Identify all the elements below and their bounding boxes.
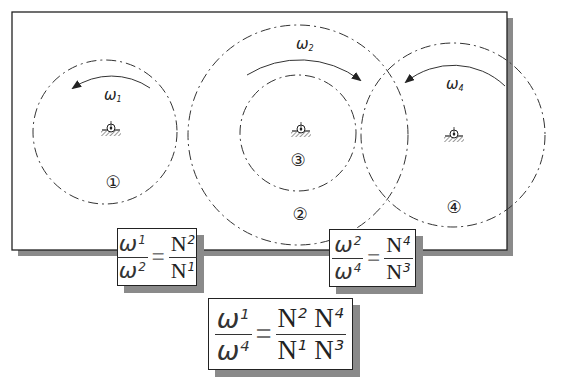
- gear-1-label: ①: [105, 172, 120, 192]
- diagram-frame: [12, 12, 507, 250]
- equation-1-lhs: ω1 ω2: [117, 233, 148, 282]
- equation-3-rhs: N2 N4 N1 N3: [276, 305, 347, 364]
- equation-3-lhs: ω1 ω4: [215, 305, 252, 364]
- equation-gear-2-4: ω2 ω4 = N4 N3: [329, 229, 416, 287]
- equation-gear-1-4-combined: ω1 ω4 = N2 N4 N1 N3: [208, 298, 353, 370]
- equals-sign: =: [367, 245, 380, 271]
- equation-gear-1-2: ω1 ω2 = N2 N1: [117, 228, 197, 286]
- equals-sign: =: [256, 319, 272, 350]
- equation-1-rhs: N2 N1: [169, 233, 198, 282]
- gear-4-label: ④: [446, 197, 461, 217]
- equation-2-lhs: ω2 ω4: [332, 234, 363, 283]
- gear-2-label: ②: [292, 204, 307, 224]
- equation-2-rhs: N4 N3: [384, 234, 413, 283]
- gear-3-label: ③: [290, 150, 305, 170]
- equals-sign: =: [152, 244, 165, 270]
